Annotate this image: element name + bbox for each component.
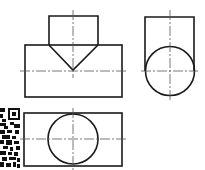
orthographic-drawing <box>0 0 205 170</box>
front-view-v-notch <box>49 45 98 70</box>
side-view <box>141 10 198 100</box>
top-view <box>20 108 127 170</box>
front-view <box>20 10 127 97</box>
qr-code-icon <box>0 108 20 168</box>
front-view-upper-block <box>49 16 98 45</box>
side-view-rectangle <box>145 17 194 71</box>
